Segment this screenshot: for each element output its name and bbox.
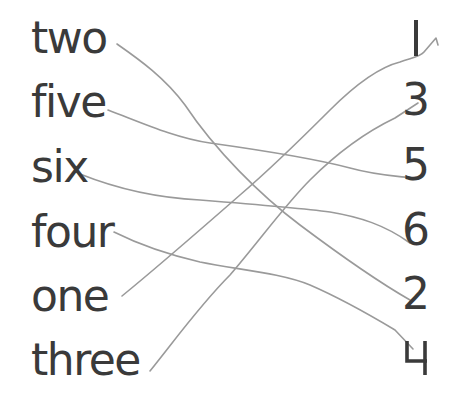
line-six-to-6 (80, 174, 410, 243)
line-one-to-1 (122, 38, 438, 296)
word-two: two (31, 16, 107, 60)
number-5: 5 (400, 143, 430, 187)
word-three: three (31, 338, 140, 382)
matching-worksheet: two five six four one three 1 3 5 6 2 4 (0, 0, 450, 397)
word-six: six (31, 145, 88, 189)
number-1-glyph (414, 20, 418, 56)
line-two-to-2 (117, 44, 410, 300)
word-one: one (31, 274, 108, 318)
number-1-label: 1 (0, 0, 1, 1)
number-4-label: 4 (0, 0, 1, 1)
number-3: 3 (400, 78, 430, 122)
number-6: 6 (400, 208, 430, 252)
line-five-to-5 (108, 110, 412, 178)
line-four-to-4 (114, 232, 413, 349)
word-four: four (31, 210, 113, 254)
line-three-to-3 (150, 103, 418, 371)
word-five: five (31, 80, 106, 124)
number-2: 2 (400, 272, 430, 316)
number-4-glyph (405, 341, 429, 375)
